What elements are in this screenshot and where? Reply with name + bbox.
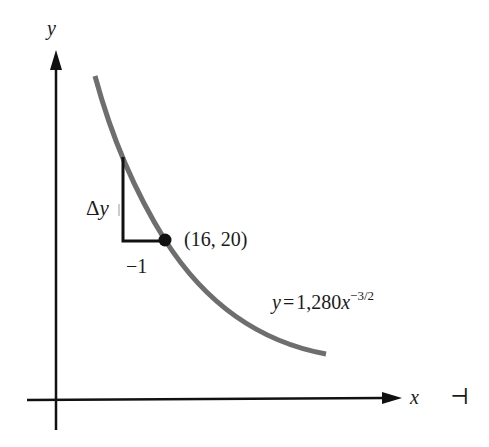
y-axis-arrowhead — [50, 50, 62, 70]
point-label: (16, 20) — [184, 228, 247, 251]
x-axis-label: x — [409, 386, 419, 408]
x-axis-arrowhead — [382, 392, 402, 404]
margin-mark: ⊣ — [450, 384, 469, 409]
function-graph: y x Δy −1 (16, 20) y=1,280x−3/2 ⊣ — [0, 0, 489, 447]
x-axis — [27, 398, 385, 400]
delta-x-label: −1 — [126, 255, 147, 277]
curve-equation: y=1,280x−3/2 — [270, 288, 374, 314]
delta-y-label: Δy — [86, 196, 110, 220]
y-axis-label: y — [45, 17, 56, 40]
point-marker — [159, 234, 172, 247]
